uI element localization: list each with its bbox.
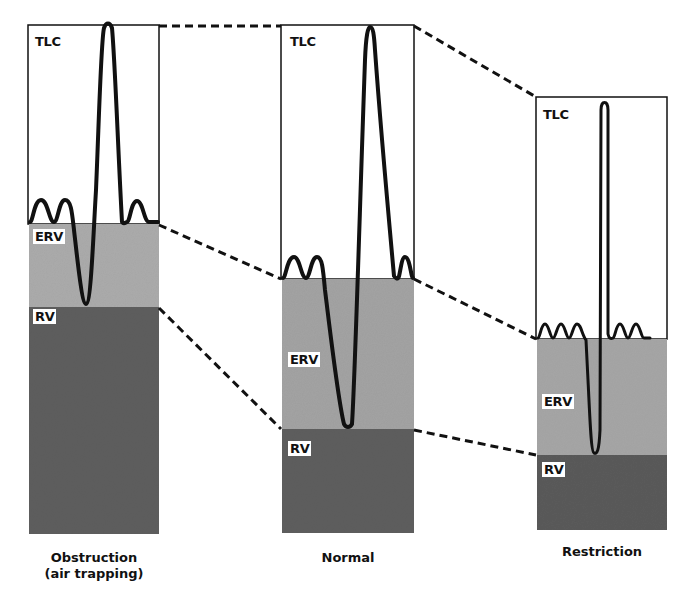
caption-line: Restriction xyxy=(522,544,682,560)
panel-obstruction xyxy=(28,24,159,535)
frc-connector xyxy=(159,225,281,279)
rv-connector xyxy=(159,308,281,429)
rv-label: RV xyxy=(33,309,56,324)
tlc-connector xyxy=(414,26,536,97)
panel-normal xyxy=(281,25,414,533)
rv-label: RV xyxy=(288,441,311,456)
tlc-label: TLC xyxy=(33,34,63,49)
caption-line: (air trapping) xyxy=(14,566,174,582)
caption-line: Obstruction xyxy=(14,550,174,566)
panel-caption: Obstruction (air trapping) xyxy=(14,550,174,582)
tlc-label: TLC xyxy=(541,107,571,122)
panel-caption: Restriction xyxy=(522,544,682,560)
panel-caption: Normal xyxy=(268,550,428,566)
erv-label: ERV xyxy=(288,352,320,367)
caption-line: Normal xyxy=(268,550,428,566)
rv-region xyxy=(29,307,159,534)
lung-volume-diagram xyxy=(0,0,685,593)
tlc-region xyxy=(281,25,414,279)
frc-connector xyxy=(414,279,536,339)
erv-label: ERV xyxy=(542,394,574,409)
rv-connector xyxy=(414,430,536,455)
tlc-label: TLC xyxy=(288,34,318,49)
erv-label: ERV xyxy=(33,229,65,244)
rv-label: RV xyxy=(542,462,565,477)
tlc-region xyxy=(28,25,159,224)
